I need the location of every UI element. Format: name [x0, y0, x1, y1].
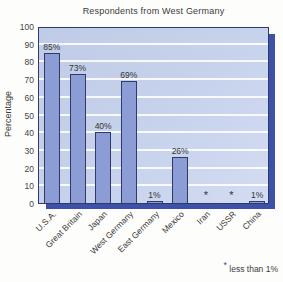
chart-footnote: * less than 1%	[223, 260, 278, 274]
footnote-text: less than 1%	[229, 264, 278, 274]
x-axis-labels: U.S.A.Great BritainJapanWest GermanyEast…	[0, 0, 283, 282]
bar-chart-figure: Respondents from West Germany Percentage…	[0, 0, 283, 282]
asterisk-symbol: *	[223, 260, 227, 270]
